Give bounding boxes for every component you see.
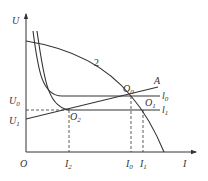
l1-label: l1 — [162, 104, 168, 117]
point-o2-label: O2 — [70, 111, 81, 124]
u-i-characteristic-diagram: U I O 2 A l0 l1 U0 U1 I2 I0 I1 O0 O1 O2 — [0, 0, 208, 181]
point-o1-label: O1 — [145, 97, 156, 110]
origin-label: O — [20, 158, 27, 169]
l0-label: l0 — [162, 90, 169, 103]
u0-label: U0 — [9, 95, 20, 108]
i1-label: I1 — [139, 158, 147, 171]
curve-l1 — [37, 31, 160, 110]
x-axis-label: I — [182, 158, 187, 169]
line-a — [26, 87, 158, 119]
i0-label: I0 — [125, 158, 133, 171]
y-axis-label: U — [12, 15, 20, 26]
u1-label: U1 — [9, 115, 20, 128]
i2-label: I2 — [64, 158, 72, 171]
line-a-label: A — [153, 75, 161, 86]
curve-2-label: 2 — [94, 57, 99, 68]
